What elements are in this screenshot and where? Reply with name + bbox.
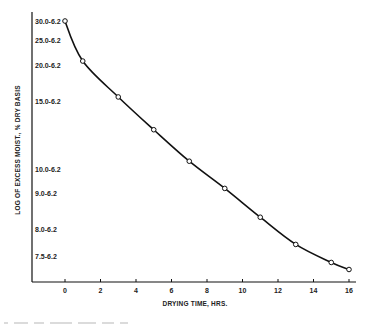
y-tick-label: 20.0-6.2 <box>35 62 61 69</box>
x-tick-label: 6 <box>170 287 174 294</box>
data-point-marker <box>293 242 298 247</box>
drying-curve-line <box>65 21 349 270</box>
x-axis-title: DRYING TIME, HRS. <box>163 300 228 308</box>
data-point-marker <box>258 215 263 220</box>
y-axis-ticks: 30.0-6.225.0-6.220.0-6.215.0-6.210.0-6.2… <box>35 18 61 260</box>
data-point-marker <box>347 267 352 272</box>
y-tick-label: 9.0-6.2 <box>35 190 57 197</box>
x-tick-label: 10 <box>239 287 247 294</box>
data-point-marker <box>116 95 121 100</box>
x-tick-label: 12 <box>274 287 282 294</box>
y-tick-label: 8.0-6.2 <box>35 226 57 233</box>
x-tick-label: 16 <box>345 287 353 294</box>
drying-curve-chart: 0246810121416 30.0-6.225.0-6.220.0-6.215… <box>0 0 376 325</box>
data-point-marker <box>187 159 192 164</box>
y-tick-label: 15.0-6.2 <box>35 98 61 105</box>
y-tick-label: 7.5-6.2 <box>35 253 57 260</box>
faint-caption-residue <box>4 313 234 319</box>
x-tick-label: 14 <box>310 287 318 294</box>
y-tick-label: 25.0-6.2 <box>35 37 61 44</box>
y-tick-label: 10.0-6.2 <box>35 166 61 173</box>
y-tick-label: 30.0-6.2 <box>35 18 61 25</box>
y-axis-title: LOG OF EXCESS MOIST., % DRY BASIS <box>14 85 22 215</box>
data-point-marker <box>329 260 334 265</box>
data-point-marker <box>80 59 85 64</box>
data-point-marker <box>63 19 68 24</box>
x-tick-label: 4 <box>134 287 138 294</box>
x-tick-label: 8 <box>205 287 209 294</box>
x-tick-label: 0 <box>63 287 67 294</box>
data-point-marker <box>222 186 227 191</box>
x-axis-ticks: 0246810121416 <box>63 279 353 294</box>
x-tick-label: 2 <box>99 287 103 294</box>
data-point-marker <box>151 127 156 132</box>
data-point-markers <box>63 19 352 272</box>
